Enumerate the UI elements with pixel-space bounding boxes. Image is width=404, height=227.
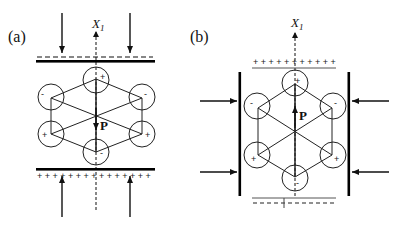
atom-lower-left-b <box>244 142 270 168</box>
lattice-left-b <box>258 84 295 177</box>
atom-upper-right-b <box>320 93 346 119</box>
electrode-top-a <box>36 60 155 63</box>
charge-lower-left-b: + <box>251 154 256 164</box>
panel-b: (b) X1 + + + + + + + + + + + <box>190 15 389 208</box>
crystal-lattice-b <box>258 84 332 177</box>
charge-upper-right-a: - <box>144 89 147 99</box>
charge-bottom-b: - <box>296 178 299 188</box>
charge-upper-left-b: - <box>250 98 253 108</box>
polarization-label-b: P <box>299 108 307 123</box>
panel-label-a: (a) <box>8 28 26 46</box>
charge-lower-right-a: + <box>145 130 150 140</box>
panel-label-b: (b) <box>190 28 209 46</box>
charge-lower-left-a: + <box>42 130 47 140</box>
charge-upper-right-b: - <box>334 98 337 108</box>
charge-top-b: + <box>295 76 300 86</box>
piezoelectric-diagram: (a) X1 + + + + + + + + + + + + + + + <box>0 0 404 227</box>
polarization-label-a: P <box>100 118 108 133</box>
charge-bottom-a: - <box>100 148 103 158</box>
surface-charge-positive-a: + + + + + + + + + + + + + + + <box>37 171 151 181</box>
axis-label-a: X1 <box>91 16 104 33</box>
electrode-left-b <box>239 72 242 196</box>
surface-charge-positive-b: + + + + + + + + + + + <box>253 57 336 67</box>
atom-upper-left-b <box>244 93 270 119</box>
electrode-right-b <box>348 72 351 196</box>
panel-a: (a) X1 + + + + + + + + + + + + + + + <box>8 13 155 217</box>
atom-lower-right-b <box>320 142 346 168</box>
charge-upper-left-a: - <box>41 89 44 99</box>
charge-lower-right-b: + <box>334 154 339 164</box>
axis-label-b: X1 <box>290 15 303 32</box>
charge-top-a: + <box>100 72 105 82</box>
lattice-right-b <box>295 84 332 177</box>
